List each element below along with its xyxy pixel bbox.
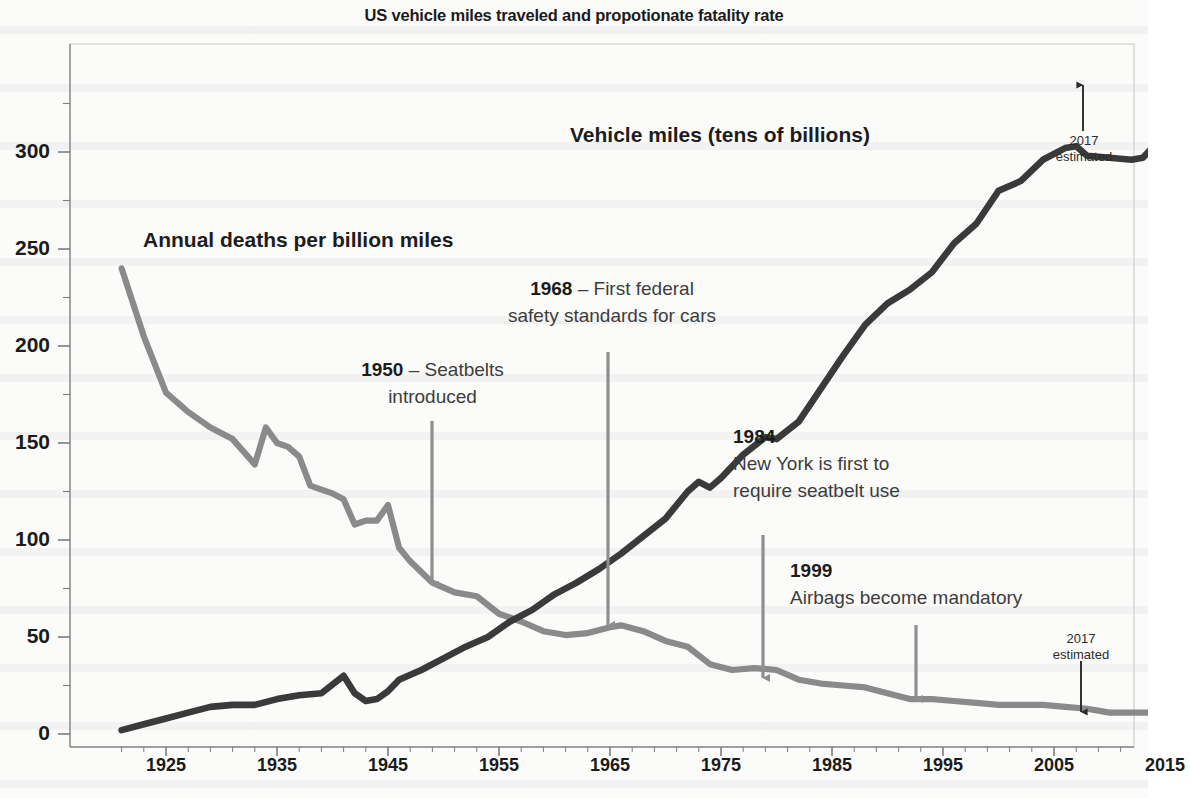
annotation-1984-year: 1984	[733, 426, 775, 447]
annotation-1984-line2: require seatbelt use	[733, 478, 900, 505]
x-tick-label-2015: 2015	[1120, 755, 1190, 776]
estimate-note-miles: 2017 estimated	[1046, 133, 1122, 166]
plot-frame	[70, 44, 1134, 747]
miles-line	[122, 109, 1148, 730]
estimate-note-deaths: 2017 estimated	[1043, 631, 1119, 664]
annotation-1950-year: 1950	[361, 359, 403, 380]
annotation-1999-year: 1999	[790, 560, 832, 581]
estimate-note-deaths-text: estimated	[1043, 647, 1119, 663]
annotation-1968-sep: –	[572, 278, 593, 299]
y-tick-label-0: 0	[0, 721, 50, 745]
x-tick-label-1945: 1945	[343, 755, 433, 776]
x-tick-label-1935: 1935	[232, 755, 322, 776]
estimate-note-miles-text: estimated	[1046, 149, 1122, 165]
annotation-1968-line1: First federal	[594, 278, 694, 299]
estimate-note-miles-year: 2017	[1046, 133, 1122, 149]
x-tick-label-1955: 1955	[454, 755, 544, 776]
y-tick-label-250: 250	[0, 236, 50, 260]
y-tick-label-200: 200	[0, 333, 50, 357]
x-tick-label-1995: 1995	[898, 755, 988, 776]
deaths-line	[122, 268, 1148, 712]
annotation-1950: 1950 – Seatbelts introduced	[330, 357, 535, 411]
x-tick-label-2005: 2005	[1009, 755, 1099, 776]
y-axis-ticks	[58, 104, 70, 735]
series-group	[122, 109, 1148, 730]
x-tick-label-1975: 1975	[676, 755, 766, 776]
annotation-1968-year: 1968	[530, 278, 572, 299]
annotation-1984: 1984 New York is first to require seatbe…	[733, 424, 900, 505]
x-tick-label-1925: 1925	[121, 755, 211, 776]
y-tick-label-50: 50	[0, 624, 50, 648]
annotation-1950-sep: –	[403, 359, 424, 380]
annotation-1950-line1: Seatbelts	[425, 359, 504, 380]
annotation-1950-line2: introduced	[330, 384, 535, 411]
y-tick-label-150: 150	[0, 430, 50, 454]
estimate-note-deaths-year: 2017	[1043, 631, 1119, 647]
x-tick-label-1985: 1985	[787, 755, 877, 776]
x-tick-label-1965: 1965	[565, 755, 655, 776]
annotation-1968: 1968 – First federal safety standards fo…	[487, 276, 737, 330]
annotation-1984-line1: New York is first to	[733, 451, 900, 478]
y-tick-label-100: 100	[0, 527, 50, 551]
y-tick-label-300: 300	[0, 139, 50, 163]
series-label-miles: Vehicle miles (tens of billions)	[570, 123, 870, 147]
annotation-1968-line2: safety standards for cars	[487, 303, 737, 330]
series-label-deaths: Annual deaths per billion miles	[143, 228, 453, 252]
axis-lines	[70, 44, 1134, 747]
annotation-1999-line1: Airbags become mandatory	[790, 585, 1022, 612]
annotation-1999: 1999 Airbags become mandatory	[790, 558, 1022, 612]
